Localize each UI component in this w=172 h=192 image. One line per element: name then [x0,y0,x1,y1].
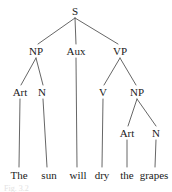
node-vp: VP [112,46,128,57]
np2-to-art2 [128,99,137,126]
leaf-the-object: the [120,170,133,181]
art1-to-the1 [19,99,20,167]
n1-to-sun [43,99,47,167]
syntax-tree-figure: S NP Aux VP Art N V NP Art N The sun wil… [0,0,172,192]
leaf-grapes: grapes [140,170,169,181]
leaf-sun: sun [41,170,56,181]
node-s: S [71,6,79,17]
node-np-object: NP [129,87,145,98]
leaf-dry: dry [95,170,110,181]
s-to-np [38,18,75,44]
leaf-will: will [69,170,86,181]
node-n-subject: N [37,87,47,98]
n2-to-grapes [155,140,156,167]
aux-to-will [76,58,77,167]
node-aux: Aux [66,46,87,57]
vp-to-v [104,58,120,85]
vp-to-np2 [120,58,136,85]
figure-caption: Fig. 3.2 [4,185,29,192]
v-to-dry [102,99,103,167]
s-to-vp [75,18,118,44]
node-v: V [98,87,108,98]
node-art-subject: Art [12,87,29,98]
node-n-object: N [151,128,161,139]
np1-to-art1 [21,58,36,85]
np2-to-n2 [137,99,156,126]
s-to-aux [75,18,76,44]
leaf-the-subject: The [10,170,27,181]
np1-to-n1 [36,58,43,85]
node-art-object: Art [119,128,136,139]
node-np-subject: NP [28,46,44,57]
